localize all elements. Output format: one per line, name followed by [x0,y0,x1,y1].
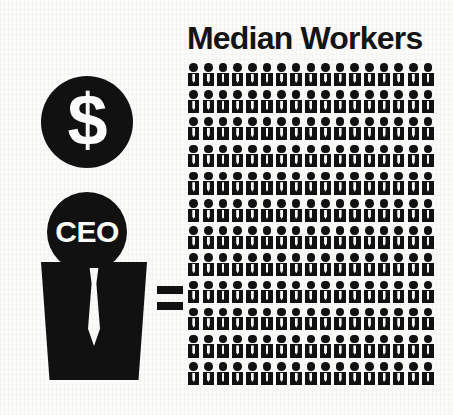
equals-bar-bottom [157,302,183,310]
worker-person-icon [407,281,422,308]
worker-person-icon [319,226,334,253]
worker-head [409,308,418,317]
worker-person-icon [407,117,422,144]
worker-person-icon [260,253,275,280]
worker-person-icon [216,253,231,280]
worker-person-icon [187,226,202,253]
worker-head [292,362,301,371]
worker-head [248,172,257,181]
worker-head [336,90,345,99]
infographic-canvas: $ CEO Median Workers [0,0,453,415]
worker-head [321,117,330,126]
worker-person-icon [304,281,319,308]
worker-head [233,362,242,371]
worker-head [248,253,257,262]
worker-head [424,362,433,371]
worker-person-icon [392,199,407,226]
worker-head [204,335,213,344]
worker-head [219,145,228,154]
worker-head [336,226,345,235]
worker-person-icon [275,63,290,90]
worker-head [365,281,374,290]
worker-head [277,117,286,126]
worker-person-icon [260,226,275,253]
worker-person-icon [231,362,246,389]
worker-person-icon [187,145,202,172]
worker-head [248,90,257,99]
worker-person-icon [216,199,231,226]
worker-person-icon [363,63,378,90]
worker-person-icon [187,253,202,280]
worker-head [189,145,198,154]
worker-person-icon [216,226,231,253]
worker-person-icon [319,90,334,117]
ceo-side-group: $ CEO [0,0,160,415]
worker-head [263,226,272,235]
worker-head [350,145,359,154]
worker-person-icon [231,63,246,90]
worker-person-icon [246,253,261,280]
worker-head [409,63,418,72]
worker-head [233,90,242,99]
ceo-head-icon: CEO [47,192,127,272]
worker-head [321,172,330,181]
dollar-symbol: $ [67,84,106,156]
worker-head [204,172,213,181]
worker-head [365,308,374,317]
worker-head [394,281,403,290]
worker-person-icon [333,63,348,90]
worker-person-icon [377,90,392,117]
worker-head [365,117,374,126]
worker-head [263,253,272,262]
worker-head [263,281,272,290]
worker-head [409,117,418,126]
worker-head [394,362,403,371]
worker-person-icon [216,117,231,144]
worker-person-icon [421,117,436,144]
worker-head [292,335,301,344]
worker-person-icon [392,226,407,253]
ceo-label: CEO [55,217,119,247]
worker-head [321,90,330,99]
worker-person-icon [246,362,261,389]
worker-person-icon [260,63,275,90]
worker-head [292,226,301,235]
worker-person-icon [333,145,348,172]
worker-head [233,253,242,262]
worker-person-icon [246,117,261,144]
worker-head [394,117,403,126]
worker-head [292,308,301,317]
worker-person-icon [231,145,246,172]
worker-person-icon [348,308,363,335]
worker-person-icon [304,172,319,199]
worker-head [409,253,418,262]
worker-person-icon [392,362,407,389]
worker-person-icon [319,117,334,144]
worker-head [263,335,272,344]
worker-head [263,90,272,99]
worker-head [321,281,330,290]
worker-head [248,308,257,317]
worker-head [307,226,316,235]
worker-person-icon [377,117,392,144]
worker-person-icon [304,90,319,117]
worker-head [380,335,389,344]
worker-person-icon [319,63,334,90]
worker-figure-grid [187,63,436,389]
worker-person-icon [363,117,378,144]
worker-head [277,63,286,72]
worker-head [233,281,242,290]
worker-person-icon [407,145,422,172]
worker-person-icon [304,117,319,144]
worker-person-icon [187,63,202,90]
worker-head [336,362,345,371]
worker-person-icon [246,335,261,362]
worker-person-icon [392,281,407,308]
worker-head [277,90,286,99]
worker-person-icon [333,226,348,253]
worker-head [365,145,374,154]
worker-person-icon [348,145,363,172]
worker-head [219,281,228,290]
worker-head [321,199,330,208]
worker-head [365,362,374,371]
